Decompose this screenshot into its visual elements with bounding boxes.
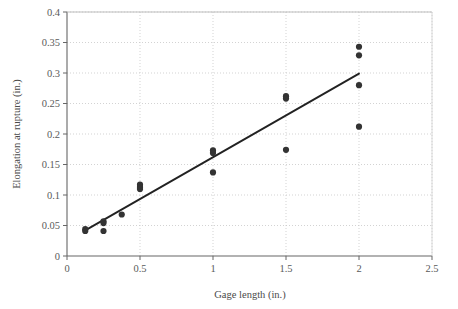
tick-labels: 00.050.10.150.20.250.30.350.400.511.522.… [42,7,439,274]
y-tick-label: 0.3 [47,68,60,79]
axis-ticks [63,12,432,260]
data-point [283,96,289,102]
data-point [283,147,289,153]
data-point [356,124,362,130]
data-point [82,228,88,234]
y-tick-label: 0.35 [42,37,60,48]
data-point [210,169,216,175]
data-point [356,52,362,58]
x-tick-label: 2.5 [425,263,438,274]
chart-figure: 00.050.10.150.20.250.30.350.400.511.522.… [0,0,458,309]
y-axis-title: Elongation at rupture (in.) [11,79,23,189]
grid-lines [67,12,432,256]
x-axis-title: Gage length (in.) [214,289,286,301]
y-tick-label: 0.1 [47,190,60,201]
x-tick-label: 1.5 [279,263,292,274]
data-point [100,228,106,234]
y-tick-label: 0 [55,251,60,262]
y-tick-label: 0.25 [42,98,60,109]
x-tick-label: 0.5 [133,263,146,274]
x-tick-label: 0 [64,263,69,274]
x-tick-label: 2 [356,263,361,274]
data-points [82,44,362,234]
data-point [356,82,362,88]
data-point [119,211,125,217]
regression-line [85,74,359,231]
data-point [210,150,216,156]
y-tick-label: 0.15 [42,159,60,170]
data-point [137,186,143,192]
fitted-line [85,74,359,231]
y-tick-label: 0.05 [42,220,60,231]
x-tick-label: 1 [210,263,215,274]
data-point [356,44,362,50]
scatter-plot: 00.050.10.150.20.250.30.350.400.511.522.… [0,0,458,309]
y-tick-label: 0.4 [47,7,61,18]
data-point [100,220,106,226]
y-tick-label: 0.2 [47,129,60,140]
